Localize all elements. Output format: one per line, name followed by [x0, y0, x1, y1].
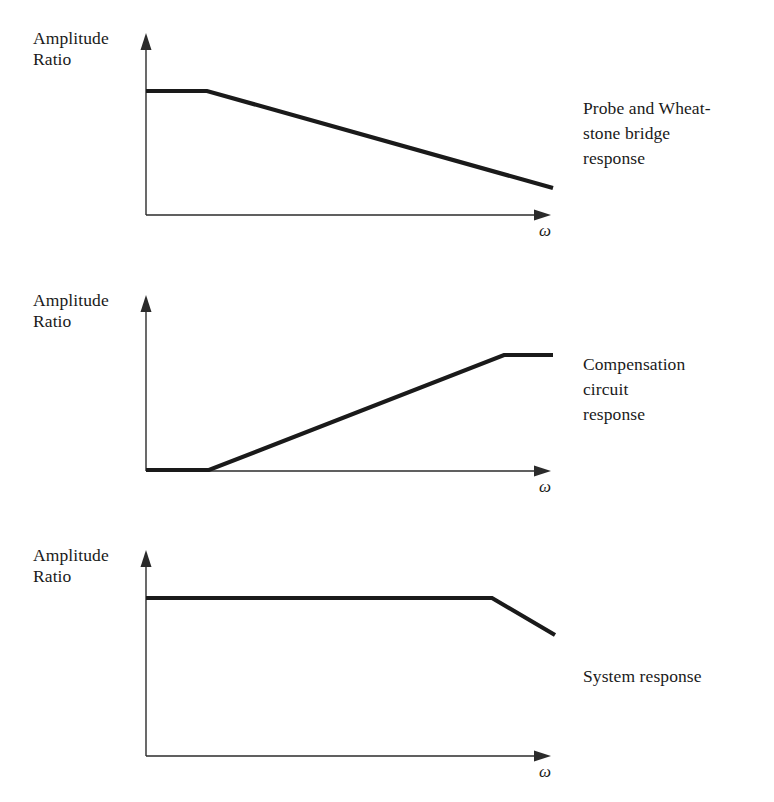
plot-3-caption: System response	[583, 664, 702, 689]
plot-3-response-curve	[146, 598, 555, 635]
plot-3-y-axis-arrow-icon	[141, 550, 152, 567]
plot-3-y-axis-label: Amplitude Ratio	[33, 545, 109, 587]
plot-3-x-axis-label: ω	[539, 762, 551, 782]
frequency-response-figure: Amplitude Ratio ω Probe and Wheat- stone…	[0, 0, 774, 802]
plot-3-x-axis-arrow-icon	[534, 751, 551, 762]
